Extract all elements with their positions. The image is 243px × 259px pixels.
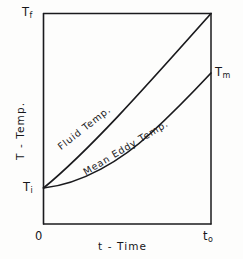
- tick-subscript: m: [222, 71, 230, 80]
- axis-frame: [43, 13, 212, 225]
- x-axis-title: t - Time: [98, 241, 147, 252]
- fluid-temp-curve: [44, 14, 212, 189]
- y-axis-top-tick-label: Tf: [22, 7, 32, 20]
- plot-canvas: [0, 0, 243, 259]
- x-axis-end-tick-label: to: [203, 231, 213, 244]
- y-axis-bottom-tick-label: Ti: [23, 182, 33, 195]
- origin-tick-label: 0: [35, 231, 43, 243]
- y-axis-title: T - Temp.: [15, 102, 26, 160]
- tick-subscript: f: [29, 11, 32, 20]
- tick-subscript: o: [208, 235, 213, 244]
- mean-eddy-endpoint-label: Tm: [215, 67, 230, 80]
- tick-subscript: i: [30, 186, 32, 195]
- tick-base: t: [203, 229, 208, 243]
- figure-container: Tf Ti Tm 0 to T - Temp. t - Time Fluid T…: [0, 0, 243, 259]
- mean-eddy-temp-curve: [44, 73, 212, 188]
